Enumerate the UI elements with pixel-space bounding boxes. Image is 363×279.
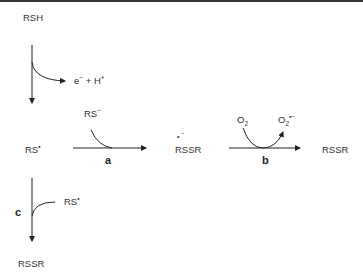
proton-label: H <box>94 75 101 86</box>
radical-dot: • <box>38 143 40 150</box>
node-rs-radical: RS• <box>25 144 40 155</box>
electron-charge: − <box>79 74 83 81</box>
anion-radical-mark: • ‾ <box>177 133 184 140</box>
radical-dot-c: • <box>77 195 79 202</box>
node-rsh: RSH <box>23 12 43 23</box>
label-rs-anion: RS− <box>84 108 101 119</box>
rs-radical-c-text: RS <box>64 196 77 207</box>
node-rssr-product-c: RSSR <box>18 258 44 269</box>
label-o2: O2 <box>237 114 248 125</box>
anion-charge: − <box>97 107 101 114</box>
superoxide-charge: •− <box>289 113 295 120</box>
label-electron-proton: e− + H+ <box>74 75 105 86</box>
superoxide-subscript: 2 <box>285 120 289 127</box>
plus-sign: + <box>86 75 92 86</box>
rs-anion-text: RS <box>84 108 97 119</box>
reaction-b-label: b <box>262 154 269 166</box>
reaction-c-label: c <box>15 206 21 218</box>
reaction-a-label: a <box>105 154 111 166</box>
node-rssr-product-b: RSSR <box>322 144 348 155</box>
label-rs-radical-c: RS• <box>64 196 79 207</box>
o2-subscript: 2 <box>244 120 248 127</box>
label-superoxide: O2•− <box>278 114 295 125</box>
node-rssr-anion-radical: RSSR <box>175 144 201 155</box>
proton-charge: + <box>101 74 105 81</box>
rs-radical-text: RS <box>25 144 38 155</box>
